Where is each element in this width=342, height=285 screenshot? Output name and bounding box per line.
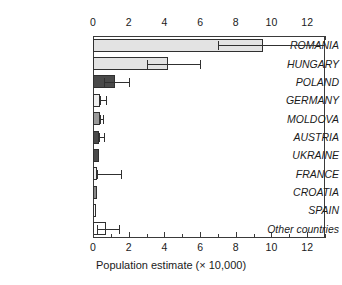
minor-tick <box>254 234 255 238</box>
major-tick <box>164 232 165 238</box>
category-label-other-countries: Other countries <box>254 223 342 235</box>
error-bar-hungary <box>147 64 201 65</box>
error-cap <box>103 115 104 124</box>
minor-tick <box>182 234 183 238</box>
x-tick-label: 10 <box>266 16 278 28</box>
error-cap <box>104 133 105 142</box>
error-cap <box>100 96 101 105</box>
error-cap <box>99 133 100 142</box>
bar-chart-figure: 024681012 ROMANIAHUNGARYPOLANDGERMANYMOL… <box>0 0 342 285</box>
error-bar-poland <box>104 82 129 83</box>
bar-croatia <box>93 186 97 199</box>
category-label-spain: SPAIN <box>254 204 342 216</box>
x-tick-label: 8 <box>233 16 239 28</box>
category-label-poland: POLAND <box>254 76 342 88</box>
error-cap <box>104 78 105 87</box>
x-tick-label: 2 <box>126 16 132 28</box>
error-cap <box>129 78 130 87</box>
minor-tick <box>111 234 112 238</box>
minor-tick <box>289 234 290 238</box>
minor-tick <box>325 234 326 238</box>
error-cap <box>218 41 219 50</box>
x-tick-label: 6 <box>197 241 203 253</box>
x-tick-label: 0 <box>90 16 96 28</box>
x-axis-label: Population estimate (× 10,000) <box>0 259 342 271</box>
x-tick-label: 4 <box>161 241 167 253</box>
bar-moldova <box>93 112 100 125</box>
error-cap <box>106 96 107 105</box>
bar-ukraine <box>93 149 99 162</box>
x-tick-label: 6 <box>197 16 203 28</box>
x-tick-label: 2 <box>126 241 132 253</box>
x-tick-label: 8 <box>233 241 239 253</box>
error-cap <box>119 225 120 234</box>
category-label-moldova: MOLDOVA <box>254 113 342 125</box>
error-cap <box>97 225 98 234</box>
error-cap <box>147 60 148 69</box>
category-label-germany: GERMANY <box>254 94 342 106</box>
error-cap <box>100 115 101 124</box>
minor-tick <box>147 234 148 238</box>
major-tick <box>271 232 272 238</box>
error-bar-romania <box>218 45 325 46</box>
category-label-ukraine: UKRAINE <box>254 149 342 161</box>
category-label-hungary: HUNGARY <box>254 58 342 70</box>
bar-spain <box>93 204 96 217</box>
x-tick-label: 12 <box>301 241 313 253</box>
x-tick-label: 4 <box>161 16 167 28</box>
category-label-croatia: CROATIA <box>254 186 342 198</box>
x-tick-label: 12 <box>301 16 313 28</box>
minor-tick <box>218 234 219 238</box>
major-tick <box>129 232 130 238</box>
category-label-austria: AUSTRIA <box>254 131 342 143</box>
error-cap <box>97 170 98 179</box>
error-cap <box>121 170 122 179</box>
major-tick <box>93 232 94 238</box>
bar-germany <box>93 94 100 107</box>
error-bar-other-countries <box>97 229 119 230</box>
error-bar-france <box>97 174 120 175</box>
error-cap <box>200 60 201 69</box>
category-label-france: FRANCE <box>254 168 342 180</box>
major-tick <box>236 232 237 238</box>
x-tick-label: 0 <box>90 241 96 253</box>
major-tick <box>200 232 201 238</box>
x-tick-label: 10 <box>266 241 278 253</box>
major-tick <box>307 232 308 238</box>
